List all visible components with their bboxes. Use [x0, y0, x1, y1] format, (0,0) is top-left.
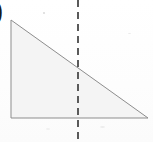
scan-artifact-speck: [128, 33, 131, 34]
scan-artifact-speck: [46, 128, 50, 130]
right-triangle-shape: [11, 20, 148, 118]
geometry-figure: ): [0, 0, 153, 142]
figure-svg: [0, 0, 153, 142]
corner-label: ): [0, 0, 3, 25]
scan-artifact-speck: [100, 126, 105, 128]
scan-artifact-speck: [43, 12, 45, 14]
